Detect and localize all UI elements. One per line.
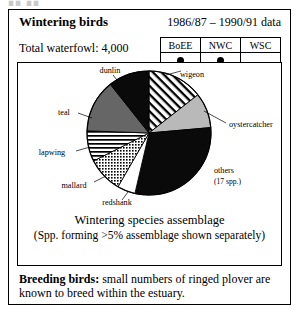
breeding-birds-heading: Breeding birds: (19, 272, 99, 286)
pie-label-redshank: redshank (102, 198, 132, 207)
scan-edge-artifact: ▮▮ ▮▮ (8, 0, 40, 6)
breeding-birds-section: Breeding birds: small numbers of ringed … (19, 272, 281, 300)
wintering-assemblage-chart: wigeon oystercatcher others (17 spp.) re… (17, 62, 282, 266)
chart-caption-line1: Wintering species assemblage (18, 213, 281, 228)
pie-label-dunlin: dunlin (100, 66, 121, 75)
leader-line-lapwing (76, 147, 90, 151)
pie-label-oystercatcher: oystercatcher (229, 120, 273, 129)
leader-line-dunlin (113, 75, 117, 80)
pie-label-others: others (214, 166, 234, 175)
pie-label-teal: teal (58, 108, 71, 117)
survey-col-boee: BoEE (161, 38, 201, 53)
chart-caption-line2: (Spp. forming >5% assemblage shown separ… (18, 229, 281, 241)
pie-label-wigeon: wigeon (180, 70, 204, 79)
species-account-card: Wintering birds 1986/87 – 1990/91 data T… (8, 9, 291, 305)
survey-col-nwc: NWC (201, 38, 241, 53)
card-header: Wintering birds 1986/87 – 1990/91 data (9, 10, 290, 36)
leader-line-mallard (94, 176, 106, 182)
pie-label-lapwing: lapwing (39, 148, 65, 157)
data-period-label: 1986/87 – 1990/91 data (167, 15, 281, 30)
pie-label-mallard: mallard (61, 181, 86, 190)
pie-label-others-count: (17 spp.) (214, 177, 241, 186)
page-title: Wintering birds (19, 14, 108, 30)
survey-col-wsc: WSC (241, 38, 281, 53)
table-header-row: BoEE NWC WSC (161, 38, 281, 53)
pie-chart-svg: wigeon oystercatcher others (17 spp.) re… (18, 63, 281, 209)
leader-line-wigeon (166, 71, 181, 75)
total-waterfowl-label: Total waterfowl: 4,000 (19, 41, 128, 56)
